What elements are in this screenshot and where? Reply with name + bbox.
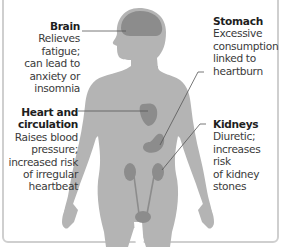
stomach-desc-line: heartburn [213, 65, 281, 77]
bladder-organ [135, 211, 151, 223]
kidneys-desc-line: Diuretic; [213, 130, 281, 142]
stomach-desc-line: Excessive [213, 27, 281, 39]
heart-desc-line: Raises blood [2, 131, 78, 143]
heart-desc-line: increased risk [2, 156, 78, 168]
heart-desc-line: pressure; [2, 143, 78, 155]
brain-title: Brain [2, 20, 80, 32]
stomach-title: Stomach [213, 15, 281, 27]
heart-desc-line: heartbeat [2, 180, 78, 192]
heart-desc-line: of irregular [2, 168, 78, 180]
heart-title-line: circulation [2, 118, 78, 130]
kidneys-label: Kidneys Diuretic; increases risk of kidn… [213, 118, 281, 192]
stomach-desc-line: consumption [213, 40, 281, 52]
kidneys-desc-line: of kidney [213, 168, 281, 180]
brain-desc-line: insomnia [2, 82, 80, 94]
kidneys-desc-line: stones [213, 180, 281, 192]
left-hand [62, 200, 78, 229]
kidneys-desc-line: increases risk [213, 143, 281, 168]
brain-desc-line: anxiety or [2, 70, 80, 82]
stomach-desc-line: linked to [213, 52, 281, 64]
brain-desc-line: can lead to [2, 57, 80, 69]
right-hand [198, 200, 214, 229]
brain-desc-line: Relieves fatigue; [2, 32, 80, 57]
brain-label: Brain Relieves fatigue; can lead to anxi… [2, 20, 80, 94]
kidneys-title: Kidneys [213, 118, 281, 130]
heart-title-line: Heart and [2, 106, 78, 118]
stomach-label: Stomach Excessive consumption linked to … [213, 15, 281, 77]
heart-label: Heart and circulation Raises blood press… [2, 106, 78, 193]
